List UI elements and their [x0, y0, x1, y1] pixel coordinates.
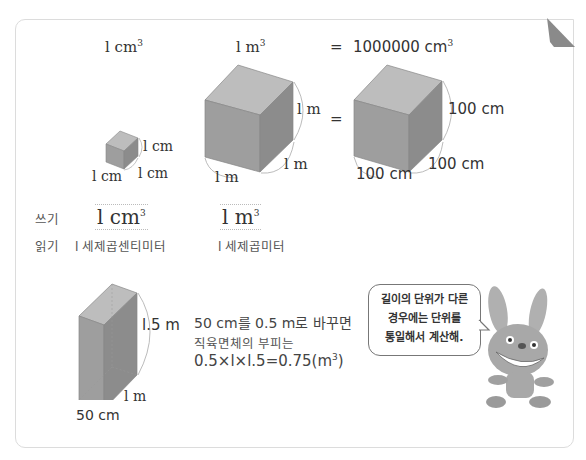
cuboid-depth-label: l m [124, 388, 146, 404]
write-m3: l m3 [220, 205, 261, 229]
cuboid-width-label: 50 cm [76, 407, 120, 423]
page-fold-icon [546, 18, 578, 50]
centimeter-cube-width-label: 100 cm [356, 165, 412, 183]
header-equals: = [330, 38, 343, 56]
small-cube-height-label: l cm [143, 138, 173, 154]
write-cm3: l cm3 [95, 205, 148, 229]
header-unit-m3: l m3 [236, 38, 266, 56]
meter-cube-depth-label: l m [284, 155, 308, 173]
small-cube-depth-label: l cm [138, 165, 168, 181]
write-label: 쓰기 [35, 209, 59, 228]
cuboid-figure [70, 275, 170, 400]
speech-bubble: 길이의 단위가 다른 경우에는 단위를 통일해서 계산해. [368, 284, 481, 356]
read-label: 읽기 [35, 236, 59, 255]
cuboid-height-label: l.5 m [142, 316, 180, 334]
read-cm3: l 세제곱센티미터 [75, 236, 166, 255]
meter-cube-height-label: l m [297, 100, 321, 118]
centimeter-cube-depth-label: 100 cm [428, 155, 484, 173]
small-cube-width-label: l cm [92, 168, 122, 184]
header-unit-cm3: l cm3 [105, 38, 143, 56]
explanation-line2: 직육면체의 부피는 [194, 333, 294, 352]
speech-line2: 경우에는 단위를 [369, 309, 480, 328]
explanation-line1: 50 cm를 0.5 m로 바꾸면 [194, 312, 352, 332]
meter-cube-width-label: l m [215, 168, 239, 186]
rabbit-character-icon [478, 280, 568, 420]
header-big-value: 1000000 cm3 [353, 38, 453, 56]
speech-line1: 길이의 단위가 다른 [369, 290, 480, 309]
explanation-formula: 0.5×l×l.5=0.75(m3) [194, 352, 344, 370]
cube-equals-sign: = [330, 110, 343, 128]
read-m3: l 세제곱미터 [218, 236, 285, 255]
centimeter-cube-height-label: 100 cm [448, 100, 504, 118]
speech-line3: 통일해서 계산해. [369, 328, 480, 347]
